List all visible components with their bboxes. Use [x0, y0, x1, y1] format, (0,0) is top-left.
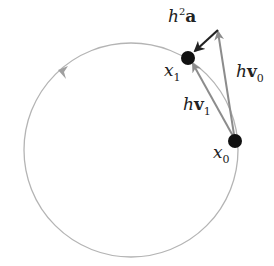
label-x1-sub: 1	[174, 71, 181, 84]
label-hv1-sub: 1	[204, 105, 211, 118]
label-h2a-h: h	[168, 6, 179, 26]
orbit-circle	[24, 43, 238, 257]
label-x0: x0	[213, 142, 230, 166]
label-x1: x1	[164, 60, 181, 84]
label-x0-sub: 0	[223, 153, 230, 166]
point-x1	[181, 51, 195, 65]
label-h2a-a: a	[185, 6, 196, 26]
label-hv0-h: h	[236, 61, 247, 81]
label-hv1-h: h	[183, 94, 194, 114]
vector-h2a	[195, 30, 218, 51]
point-x0	[228, 134, 242, 148]
label-x0-x: x	[213, 142, 223, 162]
label-hv0: hv0	[236, 61, 264, 85]
label-x1-x: x	[164, 60, 174, 80]
label-hv0-sub: 0	[257, 72, 264, 85]
orbit-diagram: h2a hv0 hv1 x1 x0	[0, 0, 274, 266]
label-h2a: h2a	[168, 6, 196, 26]
label-hv1: hv1	[183, 94, 211, 118]
